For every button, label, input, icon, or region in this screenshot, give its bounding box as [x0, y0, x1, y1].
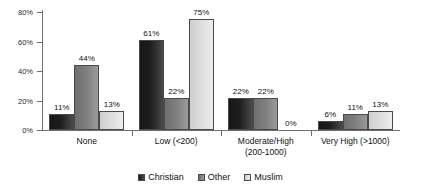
bar-muslim-1[interactable]: [99, 111, 124, 130]
category-label-3: Moderate/High(200-1000): [221, 136, 311, 158]
bar-group-bars: 11%44%13%: [49, 12, 124, 130]
bar-value-label: 44%: [79, 54, 95, 63]
bar-slot-muslim: 75%: [189, 12, 214, 130]
legend-swatch-icon: [138, 174, 145, 181]
legend-label: Christian: [148, 172, 184, 182]
bar-slot-christian: 6%: [318, 12, 343, 130]
bar-christian-2[interactable]: [139, 40, 164, 130]
legend-swatch-icon: [244, 174, 251, 181]
bar-slot-muslim: 0%: [278, 12, 303, 130]
y-tick-80: [37, 12, 42, 13]
legend-swatch-icon: [198, 174, 205, 181]
bar-value-label: 22%: [233, 87, 249, 96]
legend-item-muslim[interactable]: Muslim: [244, 172, 283, 182]
bar-group-bars: 6%11%13%: [318, 12, 393, 130]
category-label-2: Low (<200): [132, 136, 222, 147]
bar-slot-christian: 22%: [228, 12, 253, 130]
legend-label: Other: [208, 172, 231, 182]
category-label-line: Very High (>1000): [311, 136, 401, 147]
bar-group-3: 22%22%0%: [228, 12, 303, 130]
y-tick-label: 40%: [18, 67, 33, 76]
bar-christian-3[interactable]: [228, 98, 253, 130]
y-tick-label: 60%: [18, 37, 33, 46]
legend-item-other[interactable]: Other: [198, 172, 231, 182]
y-axis-line: [42, 10, 43, 131]
category-label-line: None: [42, 136, 132, 147]
bar-group-bars: 61%22%75%: [139, 12, 214, 130]
bar-value-label: 13%: [372, 100, 388, 109]
bar-slot-other: 11%: [343, 12, 368, 130]
legend-label: Muslim: [254, 172, 283, 182]
category-label-line: (200-1000): [221, 147, 311, 158]
chart-legend: ChristianOtherMuslim: [0, 172, 421, 182]
category-label-line: Moderate/High: [221, 136, 311, 147]
bar-slot-other: 22%: [164, 12, 189, 130]
bar-value-label: 0%: [285, 119, 297, 128]
bar-muslim-2[interactable]: [189, 19, 214, 130]
bar-group-1: 11%44%13%: [49, 12, 124, 130]
bar-group-4: 6%11%13%: [318, 12, 393, 130]
bar-slot-muslim: 13%: [368, 12, 393, 130]
y-tick-label: 20%: [18, 96, 33, 105]
bar-slot-other: 22%: [253, 12, 278, 130]
y-tick-label: 80%: [18, 8, 33, 17]
bar-value-label: 22%: [258, 87, 274, 96]
y-tick-40: [37, 71, 42, 72]
bar-group-bars: 22%22%0%: [228, 12, 303, 130]
y-tick-0: [37, 130, 42, 131]
category-label-1: None: [42, 136, 132, 147]
bar-christian-4[interactable]: [318, 121, 343, 130]
bar-value-label: 75%: [193, 8, 209, 17]
bar-group-2: 61%22%75%: [139, 12, 214, 130]
bar-value-label: 11%: [54, 103, 69, 112]
bar-value-label: 11%: [348, 103, 363, 112]
bar-other-2[interactable]: [164, 98, 189, 130]
category-label-line: Low (<200): [132, 136, 222, 147]
bar-value-label: 13%: [104, 100, 120, 109]
bar-value-label: 22%: [168, 87, 184, 96]
bar-other-1[interactable]: [74, 65, 99, 130]
legend-item-christian[interactable]: Christian: [138, 172, 184, 182]
bar-chart: 0%20%40%60%80% 11%44%13%61%22%75%22%22%0…: [0, 0, 421, 194]
bar-christian-1[interactable]: [49, 114, 74, 130]
bar-slot-christian: 11%: [49, 12, 74, 130]
bar-value-label: 6%: [324, 110, 336, 119]
bar-value-label: 61%: [143, 29, 159, 38]
bar-slot-muslim: 13%: [99, 12, 124, 130]
bar-slot-other: 44%: [74, 12, 99, 130]
y-tick-label: 0%: [22, 126, 33, 135]
bar-muslim-4[interactable]: [368, 111, 393, 130]
y-tick-60: [37, 42, 42, 43]
bar-other-4[interactable]: [343, 114, 368, 130]
bar-other-3[interactable]: [253, 98, 278, 130]
bar-slot-christian: 61%: [139, 12, 164, 130]
category-label-4: Very High (>1000): [311, 136, 401, 147]
y-tick-20: [37, 101, 42, 102]
